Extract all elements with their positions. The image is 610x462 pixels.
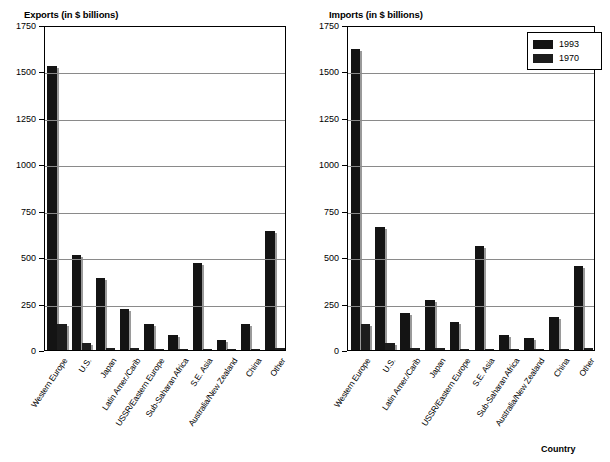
- gridline: [348, 213, 594, 214]
- y-tick-mark: [39, 305, 44, 306]
- y-tick-label: 1250: [0, 114, 36, 124]
- bar-1993-japan: [425, 300, 435, 350]
- legend-swatch-1970-icon: [533, 54, 553, 63]
- bar-shadow: [484, 248, 486, 350]
- bar-1993-china: [241, 324, 251, 350]
- bar-1993-latin-amer-carib: [120, 309, 130, 350]
- exports-plot-area: [44, 26, 286, 351]
- imports-chart-title: Imports (in $ billions): [329, 9, 423, 20]
- x-axis-title: Country: [541, 444, 576, 454]
- y-tick-mark: [39, 72, 44, 73]
- bar-1970-australia-new-zealand: [227, 349, 237, 351]
- y-tick-label: 750: [0, 207, 36, 217]
- y-tick-mark: [39, 258, 44, 259]
- bar-1970-western-europe: [361, 324, 371, 350]
- bar-1993-ussr-eastern-europe: [144, 324, 154, 350]
- bar-1993-japan: [96, 278, 106, 350]
- bar-1993-western-europe: [47, 66, 57, 350]
- bar-1970-s-e-asia: [485, 349, 495, 351]
- y-tick-label: 1750: [0, 21, 36, 31]
- bar-shadow: [129, 311, 131, 350]
- x-tick-label: Other: [268, 356, 287, 378]
- bar-1993-sub-saharan-africa: [168, 335, 178, 350]
- y-tick-mark: [342, 258, 347, 259]
- x-tick-label: China: [551, 356, 571, 379]
- bar-shadow: [583, 268, 585, 350]
- bar-1993-u-s: [375, 227, 385, 350]
- bar-1970-china: [251, 349, 261, 351]
- legend-swatch-1993-icon: [533, 40, 553, 49]
- gridline: [45, 306, 285, 307]
- y-tick-label: 0: [0, 346, 36, 356]
- imports-chart-panel: Imports (in $ billions) 0250500750100012…: [305, 0, 610, 462]
- y-tick-mark: [342, 119, 347, 120]
- bar-1970-s-e-asia: [203, 349, 213, 351]
- legend-item-1970: 1970: [533, 51, 595, 65]
- gridline: [348, 306, 594, 307]
- x-tick-label: China: [243, 356, 263, 379]
- bar-shadow: [459, 324, 461, 350]
- legend-label-1970: 1970: [559, 54, 579, 63]
- gridline: [348, 259, 594, 260]
- exports-chart-panel: Exports (in $ billions) 0250500750100012…: [0, 0, 305, 462]
- bar-1970-japan: [106, 348, 116, 350]
- y-tick-label: 1000: [305, 160, 339, 170]
- bar-1993-ussr-eastern-europe: [450, 322, 460, 350]
- bar-1993-s-e-asia: [475, 246, 485, 350]
- bar-1970-latin-amer-carib: [410, 348, 420, 350]
- y-tick-mark: [39, 119, 44, 120]
- bar-1970-latin-amer-carib: [130, 348, 140, 350]
- chart-page: Exports (in $ billions) 0250500750100012…: [0, 0, 610, 462]
- gridline: [348, 73, 594, 74]
- imports-bar-group: [348, 27, 594, 350]
- imports-plot-area: [347, 26, 595, 351]
- y-tick-mark: [342, 305, 347, 306]
- y-tick-mark: [39, 165, 44, 166]
- bar-1993-china: [549, 317, 559, 350]
- bar-1970-other: [275, 348, 285, 350]
- bar-1993-latin-amer-carib: [400, 313, 410, 350]
- gridline: [45, 259, 285, 260]
- bar-1970-u-s: [385, 343, 395, 350]
- y-tick-label: 1250: [305, 114, 339, 124]
- x-tick-label: Western Europe: [29, 356, 69, 409]
- chart-legend: 1993 1970: [527, 32, 602, 70]
- y-tick-mark: [342, 351, 347, 352]
- bar-1970-japan: [435, 348, 445, 350]
- bar-shadow: [410, 315, 412, 350]
- bar-shadow: [435, 302, 437, 350]
- gridline: [45, 120, 285, 121]
- bar-1993-other: [265, 231, 275, 350]
- exports-x-axis-labels: Western EuropeU.S.JapanLatin Amer./Carib…: [44, 356, 286, 462]
- y-tick-label: 750: [305, 207, 339, 217]
- x-tick-label: S.E. Asia: [188, 356, 214, 388]
- y-tick-mark: [39, 351, 44, 352]
- bar-1993-australia-new-zealand: [217, 340, 227, 350]
- y-tick-label: 500: [0, 253, 36, 263]
- x-tick-label: Australia/New Zealand: [493, 356, 546, 428]
- bar-shadow: [105, 280, 107, 350]
- bar-shadow: [67, 326, 69, 350]
- gridline: [45, 213, 285, 214]
- y-tick-mark: [342, 72, 347, 73]
- y-tick-label: 500: [305, 253, 339, 263]
- bar-shadow: [370, 326, 372, 350]
- legend-item-1993: 1993: [533, 37, 595, 51]
- y-tick-label: 1500: [0, 67, 36, 77]
- bar-shadow: [202, 265, 204, 350]
- bar-1993-australia-new-zealand: [524, 338, 534, 350]
- bar-1970-china: [559, 349, 569, 351]
- x-tick-label: Japan: [427, 356, 447, 380]
- bar-shadow: [154, 326, 156, 350]
- bar-1970-sub-saharan-africa: [509, 349, 519, 351]
- gridline: [348, 166, 594, 167]
- x-tick-label: Other: [576, 356, 595, 378]
- x-tick-label: Western Europe: [332, 356, 372, 409]
- bar-shadow: [81, 257, 83, 350]
- x-tick-label: S.E. Asia: [470, 356, 496, 388]
- bar-1993-u-s: [72, 255, 82, 350]
- legend-label-1993: 1993: [559, 40, 579, 49]
- y-tick-label: 250: [305, 300, 339, 310]
- bar-1970-u-s: [82, 343, 92, 350]
- bar-shadow: [385, 229, 387, 350]
